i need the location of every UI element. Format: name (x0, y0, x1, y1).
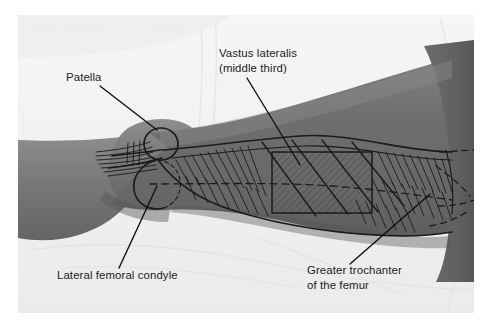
label-patella: Patella (66, 71, 102, 83)
anatomy-illustration: Patella Vastus lateralis (middle third) … (0, 0, 493, 330)
injection-site-rectangle (272, 152, 372, 213)
label-lateral-femoral-condyle: Lateral femoral condyle (57, 269, 178, 281)
photograph: Patella Vastus lateralis (middle third) … (18, 15, 474, 313)
anatomy-figure: Patella Vastus lateralis (middle third) … (0, 0, 493, 330)
